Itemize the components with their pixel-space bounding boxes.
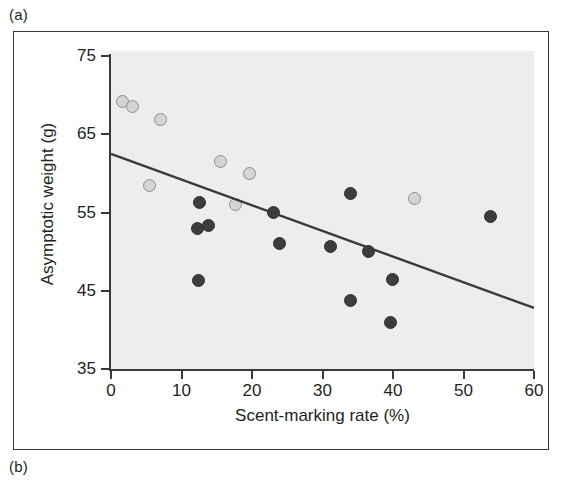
y-tick-mark <box>101 368 109 370</box>
y-tick-label: 35 <box>56 360 96 377</box>
data-point-dark-group <box>362 245 375 258</box>
x-axis-title: Scent-marking rate (%) <box>111 406 534 426</box>
x-tick-label: 30 <box>303 382 343 399</box>
y-tick-mark <box>101 133 109 135</box>
y-tick-mark <box>101 55 109 57</box>
figure-frame: 3545556575 0102030405060 Asymptotic weig… <box>13 31 549 450</box>
x-tick-mark <box>110 371 112 379</box>
data-point-dark-group <box>193 196 206 209</box>
x-tick-mark <box>322 371 324 379</box>
x-tick-label: 20 <box>232 382 272 399</box>
data-point-dark-group <box>267 206 280 219</box>
data-point-light-group <box>143 179 156 192</box>
y-tick-label: 55 <box>56 204 96 221</box>
x-tick-label: 10 <box>162 382 202 399</box>
y-tick-mark <box>101 290 109 292</box>
panel-b-label: (b) <box>9 459 28 474</box>
plot-area <box>111 51 534 369</box>
data-point-dark-group <box>386 273 399 286</box>
y-axis-title: Asymptotic weight (g) <box>38 54 58 354</box>
scatter-chart: 3545556575 0102030405060 Asymptotic weig… <box>14 32 550 451</box>
x-tick-label: 50 <box>444 382 484 399</box>
data-point-dark-group <box>192 274 205 287</box>
x-tick-mark <box>251 371 253 379</box>
y-tick-label: 65 <box>56 125 96 142</box>
panel-a-label: (a) <box>9 7 28 22</box>
y-tick-label: 45 <box>56 282 96 299</box>
y-axis-line <box>109 54 111 371</box>
data-point-light-group <box>126 100 139 113</box>
x-tick-mark <box>181 371 183 379</box>
y-tick-label: 75 <box>56 47 96 64</box>
data-point-light-group <box>408 192 421 205</box>
x-tick-label: 0 <box>91 382 131 399</box>
data-point-dark-group <box>484 210 497 223</box>
x-tick-mark <box>533 371 535 379</box>
x-tick-mark <box>463 371 465 379</box>
x-tick-label: 40 <box>373 382 413 399</box>
x-tick-label: 60 <box>514 382 554 399</box>
data-point-dark-group <box>202 219 215 232</box>
y-tick-mark <box>101 212 109 214</box>
data-point-light-group <box>154 113 167 126</box>
x-tick-mark <box>392 371 394 379</box>
